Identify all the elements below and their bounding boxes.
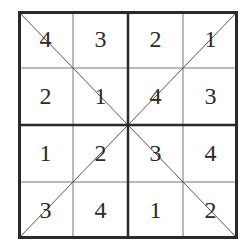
- grid-cell: 1: [73, 68, 128, 125]
- grid-cell: 1: [183, 11, 238, 68]
- grid-cell: 4: [18, 11, 73, 68]
- grid-cell: 1: [18, 125, 73, 182]
- grid-cell: 3: [18, 182, 73, 239]
- grid-cell: 2: [128, 11, 183, 68]
- grid-cell: 4: [73, 182, 128, 239]
- grid-cell: 3: [73, 11, 128, 68]
- grid-cell: 3: [183, 68, 238, 125]
- grid-cell: 4: [183, 125, 238, 182]
- grid-cell: 2: [18, 68, 73, 125]
- grid-cell: 2: [73, 125, 128, 182]
- grid-cell: 1: [128, 182, 183, 239]
- sudoku-grid: 4321214312343412: [18, 11, 238, 239]
- grid-cell: 2: [183, 182, 238, 239]
- grid-cell: 4: [128, 68, 183, 125]
- grid-cell: 3: [128, 125, 183, 182]
